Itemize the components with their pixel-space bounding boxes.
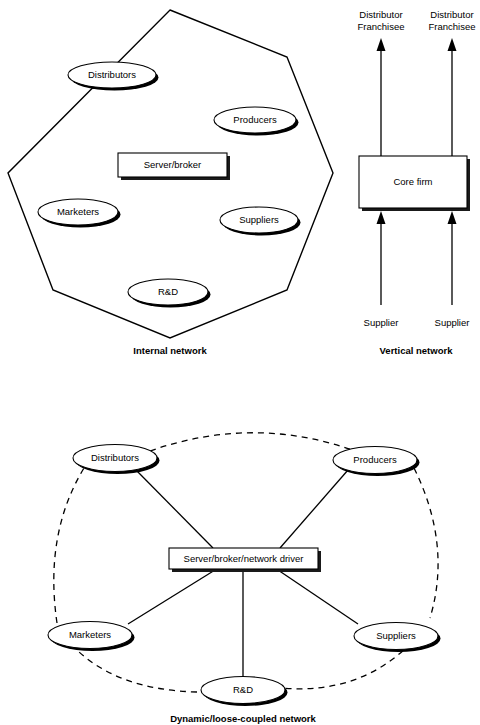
node-label: R&D (158, 286, 178, 297)
panel-vertical-network: Distributor Franchisee Distributor Franc… (358, 9, 476, 356)
spoke-to-suppliers (278, 570, 358, 624)
arrow-core-to-distributor-left (377, 38, 386, 156)
arrow-head-icon (377, 38, 386, 51)
arrow-head-icon (377, 211, 386, 224)
node-label: Distributors (91, 452, 139, 463)
center-box-server-broker-network-driver[interactable]: Server/broker/network driver (169, 548, 321, 572)
figure-root: Distributors Producers Server/broker Mar… (0, 0, 480, 725)
panel-caption-dynamic-network: Dynamic/loose-coupled network (170, 713, 316, 724)
spokes-group (128, 469, 358, 676)
node-label: Suppliers (239, 214, 279, 225)
arrow-supplier-right-to-core (448, 211, 457, 305)
center-box-core-firm[interactable]: Core firm (359, 156, 470, 211)
label-supplier-right: Supplier (435, 317, 470, 328)
label-line1: Distributor (359, 9, 402, 20)
node-marketers[interactable]: Marketers (48, 622, 135, 652)
spoke-to-marketers (128, 570, 215, 624)
node-distributors[interactable]: Distributors (68, 62, 159, 91)
panel-internal-network: Distributors Producers Server/broker Mar… (8, 10, 333, 356)
label-line2: Franchisee (429, 21, 476, 32)
panel-caption-vertical-network: Vertical network (380, 345, 454, 356)
network-types-figure: Distributors Producers Server/broker Mar… (0, 0, 480, 725)
node-label: Marketers (57, 206, 99, 217)
node-distributors[interactable]: Distributors (73, 445, 160, 475)
node-label: Marketers (69, 629, 111, 640)
label-distributor-franchisee-right: Distributor Franchisee (429, 9, 476, 32)
label-supplier-left: Supplier (364, 317, 399, 328)
arrow-head-icon (448, 211, 457, 224)
center-box-label: Server/broker/network driver (184, 553, 304, 564)
label-distributor-franchisee-left: Distributor Franchisee (358, 9, 405, 32)
dashed-arc-producers-suppliers (414, 468, 438, 618)
node-label: Producers (353, 454, 397, 465)
node-label: Distributors (88, 69, 136, 80)
dashed-arc-rnd-marketers (78, 651, 197, 692)
panel-dynamic-network: Distributors Producers Server/broker/net… (48, 433, 441, 724)
arrow-head-icon (448, 38, 457, 51)
node-suppliers[interactable]: Suppliers (354, 623, 441, 653)
node-label: R&D (233, 684, 253, 695)
spoke-to-producers (280, 470, 348, 548)
center-box-server-broker[interactable]: Server/broker (118, 153, 230, 180)
spoke-to-distributors (135, 469, 213, 548)
dashed-arc-distributors-producers (150, 433, 358, 452)
arrow-supplier-left-to-core (377, 211, 386, 305)
label-line2: Franchisee (358, 21, 405, 32)
panel-caption-internal-network: Internal network (133, 345, 207, 356)
label-line1: Distributor (430, 9, 473, 20)
arrow-core-to-distributor-right (448, 38, 457, 156)
node-rnd[interactable]: R&D (201, 677, 288, 707)
node-label: Suppliers (376, 630, 416, 641)
dashed-arc-marketers-distributors (54, 468, 84, 623)
node-label: Producers (233, 114, 277, 125)
center-box-label: Server/broker (144, 159, 202, 170)
center-box-label: Core firm (393, 176, 432, 187)
